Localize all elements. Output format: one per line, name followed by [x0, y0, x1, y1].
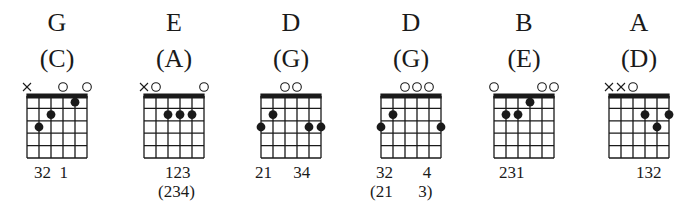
- chord-diagram-d-g-alt: D (G) 32 4 (21 3): [356, 0, 466, 213]
- fretboard-grid: [256, 78, 326, 160]
- chord-name: A: [584, 8, 689, 38]
- open-string-icon: [550, 83, 559, 92]
- finger-dot: [514, 110, 523, 119]
- finger-numbers: 32 4: [376, 164, 431, 182]
- chord-alt-name: (A): [119, 44, 229, 74]
- finger-numbers: 231: [499, 164, 525, 182]
- chord-diagram-b-e: B (E) 231: [469, 0, 579, 213]
- finger-dot: [269, 110, 278, 119]
- open-string-icon: [293, 83, 302, 92]
- finger-dot: [502, 110, 511, 119]
- finger-dot: [377, 123, 386, 132]
- open-string-icon: [281, 83, 290, 92]
- open-string-icon: [413, 83, 422, 92]
- chord-name: B: [469, 8, 579, 38]
- nut-bar: [26, 94, 87, 99]
- chord-alt-name: (G): [236, 44, 346, 74]
- open-string-icon: [629, 83, 638, 92]
- nut-bar: [493, 94, 554, 99]
- chord-name: G: [2, 8, 112, 38]
- open-string-icon: [538, 83, 547, 92]
- open-string-icon: [152, 83, 161, 92]
- finger-dot: [35, 123, 44, 132]
- chord-diagram-d-g: D (G) 21 34: [236, 0, 346, 213]
- finger-dot: [47, 110, 56, 119]
- finger-numbers: 132: [636, 164, 662, 182]
- open-string-icon: [59, 83, 68, 92]
- finger-dot: [389, 110, 398, 119]
- finger-numbers: 123: [165, 164, 191, 182]
- chord-name: D: [236, 8, 346, 38]
- chord-diagram-g-c: G (C) 32 1: [2, 0, 112, 213]
- finger-dot: [437, 123, 446, 132]
- fretboard-grid: [489, 78, 559, 160]
- finger-dot: [665, 110, 674, 119]
- finger-numbers: 32 1: [34, 164, 68, 182]
- chord-name: E: [119, 8, 229, 38]
- open-string-icon: [490, 83, 499, 92]
- finger-numbers-alt: (21 3): [370, 183, 432, 201]
- open-string-icon: [401, 83, 410, 92]
- fretboard-grid: [139, 78, 209, 160]
- chord-alt-name: (E): [469, 44, 579, 74]
- finger-dot: [176, 110, 185, 119]
- chord-diagram-e-a: E (A) 123 (234): [119, 0, 229, 213]
- finger-dot: [257, 123, 266, 132]
- finger-dot: [71, 98, 80, 107]
- chord-alt-name: (D): [584, 44, 689, 74]
- finger-numbers: 21 34: [255, 164, 310, 182]
- open-string-icon: [425, 83, 434, 92]
- fretboard-grid: [376, 78, 446, 160]
- fretboard-grid: [22, 78, 92, 160]
- finger-dot: [653, 123, 662, 132]
- finger-dot: [317, 123, 326, 132]
- open-string-icon: [200, 83, 209, 92]
- open-string-icon: [83, 83, 92, 92]
- chord-alt-name: (G): [356, 44, 466, 74]
- nut-bar: [608, 94, 669, 99]
- finger-dot: [641, 110, 650, 119]
- chord-diagram-a-d: A (D) 132: [584, 0, 689, 213]
- chord-alt-name: (C): [2, 44, 112, 74]
- finger-numbers-alt: (234): [158, 183, 195, 201]
- chord-name: D: [356, 8, 466, 38]
- finger-dot: [188, 110, 197, 119]
- finger-dot: [305, 123, 314, 132]
- nut-bar: [380, 94, 441, 99]
- finger-dot: [164, 110, 173, 119]
- finger-dot: [526, 98, 535, 107]
- nut-bar: [260, 94, 321, 99]
- fretboard-grid: [604, 78, 674, 160]
- nut-bar: [143, 94, 204, 99]
